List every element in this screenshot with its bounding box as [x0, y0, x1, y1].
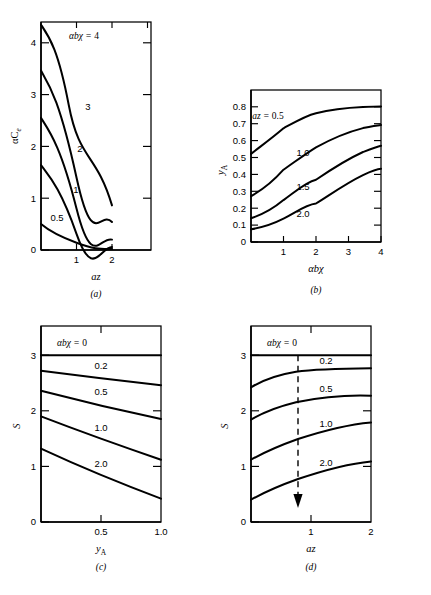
panel-d-curve-10: [251, 422, 371, 459]
panel-a-xtick-1: 1: [74, 254, 79, 265]
panel-b-ylabel-sub: A: [220, 164, 229, 170]
panel-d-ytick-2: 2: [241, 405, 246, 416]
panel-c-ytick-0: 0: [31, 516, 36, 527]
panel-d-curve-labels: αbχ = 0 0.2 0.5 1.0 2.0: [267, 338, 333, 468]
panel-c-ylabel: S: [11, 423, 22, 429]
panel-b-ytick-02: 0.2: [233, 203, 246, 214]
panel-a-curves: [41, 25, 112, 259]
panel-c-curve-02: [41, 371, 161, 385]
panel-a: 0 1 2 3 4 1 2 αCe az: [0, 6, 215, 301]
panel-b-xtick-4: 4: [378, 246, 383, 257]
panel-d-ytick-labels: 0 1 2 3: [241, 350, 246, 528]
panel-d-label-20: 2.0: [319, 457, 332, 468]
panel-a-xlabel: az: [91, 271, 100, 282]
panel-b-xtick-1: 1: [281, 246, 286, 257]
panel-d-curve-02: [251, 368, 371, 387]
panel-c-curve-20: [41, 449, 161, 499]
panel-a-legend-4: αbχ = 4: [69, 31, 99, 41]
panel-c-legend-0: αbχ = 0: [57, 338, 87, 348]
panel-d-yticks: [251, 355, 371, 522]
panel-b-xtick-3: 3: [346, 246, 351, 257]
panel-b-curves: [251, 107, 381, 230]
panel-d-xtick-labels: 1 2: [308, 526, 373, 537]
panel-b-xticks: [284, 236, 382, 242]
panel-b-label-10: 1.0: [296, 147, 309, 158]
panel-b-curve-10: [251, 125, 381, 196]
panel-b-yticks: [251, 107, 381, 242]
panel-b-xlabel: αbχ: [308, 263, 324, 274]
panel-a-ylabel: αCe: [9, 127, 23, 144]
panel-a-ylabel-base: αC: [9, 131, 20, 144]
panel-a-ytick-3: 3: [31, 89, 36, 100]
panel-d-label-05: 0.5: [319, 383, 332, 394]
panel-a-xtick-2: 2: [109, 254, 114, 265]
panel-a-ytick-labels: 0 1 2 3 4: [31, 37, 36, 255]
panel-b-ytick-05: 0.5: [233, 152, 246, 163]
panel-b-ytick-07: 0.7: [233, 118, 246, 129]
panel-c-caption: (c): [96, 562, 107, 573]
panel-b-caption: (b): [310, 285, 321, 296]
panel-d-ylabel: S: [219, 423, 230, 429]
panel-a-ytick-2: 2: [31, 141, 36, 152]
panel-d-xtick-2: 2: [368, 526, 373, 537]
panel-a-label-2: 2: [77, 143, 82, 154]
panel-c-xlabel: yA: [95, 543, 107, 557]
panel-b-label-15: 1.5: [296, 181, 309, 192]
panel-c-xtick-labels: 0.5 1.0: [94, 526, 167, 537]
panel-b: 0 0.1 0.2 0.3 0.4 0.5 0.6 0.7 0.8 1 2 3 …: [206, 80, 431, 302]
panel-d-legend-0: αbχ = 0: [267, 338, 297, 348]
panel-b-ytick-labels: 0 0.1 0.2 0.3 0.4 0.5 0.6 0.7 0.8: [233, 101, 246, 247]
panel-b-xtick-labels: 1 2 3 4: [281, 246, 384, 257]
panel-d-curve-20: [251, 461, 371, 499]
panel-b-label-20: 2.0: [296, 208, 309, 219]
panel-b-ytick-06: 0.6: [233, 135, 246, 146]
panel-a-label-3: 3: [85, 101, 90, 112]
panel-d-xlabel: az: [306, 543, 315, 554]
panel-c-xtick-05: 0.5: [94, 526, 107, 537]
panel-b-ytick-03: 0.3: [233, 186, 246, 197]
panel-b-ytick-04: 0.4: [233, 169, 246, 180]
panel-b-curve-20: [251, 169, 381, 230]
panel-c-label-05: 0.5: [94, 386, 107, 397]
panel-a-ytick-1: 1: [31, 193, 36, 204]
panel-d-plot: 0 1 2 3 1 2 S az: [206, 314, 431, 584]
panel-b-ylabel: yA: [215, 164, 229, 176]
panel-a-ytick-4: 4: [31, 37, 36, 48]
panel-c-label-20: 2.0: [94, 458, 107, 469]
svg-text:S: S: [11, 423, 22, 429]
panel-c-ytick-labels: 0 1 2 3: [31, 350, 36, 528]
panel-c-label-02: 0.2: [94, 360, 107, 371]
svg-text:αCe: αCe: [9, 127, 23, 144]
panel-d-arrow-head: [293, 494, 302, 508]
panel-b-plot: 0 0.1 0.2 0.3 0.4 0.5 0.6 0.7 0.8 1 2 3 …: [206, 80, 431, 302]
panel-d-annotation: [293, 355, 302, 508]
panel-a-caption: (a): [90, 289, 101, 300]
figure-sheet: 0 1 2 3 4 1 2 αCe az: [0, 0, 431, 595]
panel-b-ytick-01: 0.1: [233, 219, 246, 230]
panel-c-ytick-3: 3: [31, 350, 36, 361]
panel-c: 0 1 2 3 0.5 1.0 S yA: [0, 314, 215, 584]
panel-b-ytick-08: 0.8: [233, 101, 246, 112]
panel-b-ytick-0: 0: [241, 236, 246, 247]
svg-text:yA: yA: [215, 164, 229, 176]
panel-d-caption: (d): [305, 562, 316, 573]
panel-c-ytick-2: 2: [31, 405, 36, 416]
panel-a-label-1: 1: [73, 184, 78, 195]
panel-d-ytick-3: 3: [241, 350, 246, 361]
panel-c-label-10: 1.0: [94, 422, 107, 433]
panel-d-curves: [251, 355, 371, 500]
panel-b-legend-05: az = 0.5: [252, 111, 284, 121]
panel-c-xlabel-sub: A: [101, 548, 107, 557]
panel-d-curve-05: [251, 396, 371, 420]
panel-a-ytick-0: 0: [31, 244, 36, 255]
panel-a-plot: 0 1 2 3 4 1 2 αCe az: [0, 6, 215, 301]
panel-d-label-10: 1.0: [319, 418, 332, 429]
panel-d: 0 1 2 3 1 2 S az: [206, 314, 431, 584]
panel-a-label-05: 0.5: [50, 212, 63, 223]
panel-c-plot: 0 1 2 3 0.5 1.0 S yA: [0, 314, 215, 584]
panel-d-xtick-1: 1: [308, 526, 313, 537]
panel-b-xtick-2: 2: [313, 246, 318, 257]
panel-c-ytick-1: 1: [31, 461, 36, 472]
panel-d-label-02: 0.2: [319, 355, 332, 366]
panel-d-ytick-0: 0: [241, 516, 246, 527]
